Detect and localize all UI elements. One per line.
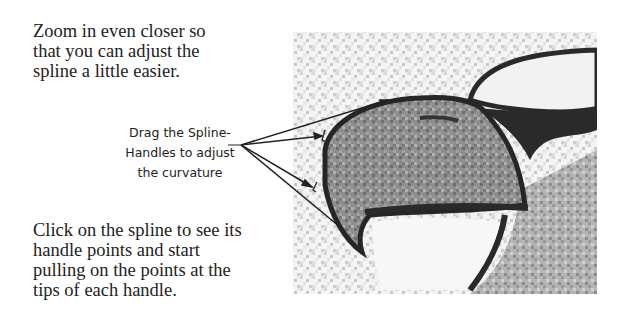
beak-photo: [293, 32, 597, 294]
eagle-beak-illustration: [0, 0, 617, 311]
